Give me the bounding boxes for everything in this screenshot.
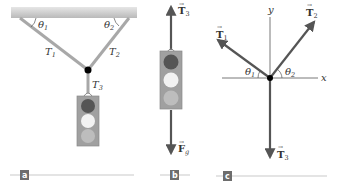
label-t1: T1 bbox=[45, 46, 56, 59]
vector-t2 bbox=[270, 22, 314, 78]
hook bbox=[84, 93, 92, 96]
panel-tag-c-label: c bbox=[225, 172, 230, 181]
angle-arc-theta1-c bbox=[258, 71, 260, 78]
label-theta2-c: θ2 bbox=[285, 66, 295, 79]
physics-figure: θ1 θ2 T1 T2 T3 a bbox=[0, 0, 342, 190]
angle-arc-theta2-c bbox=[277, 69, 282, 78]
knot bbox=[85, 67, 92, 74]
angle-arc-theta2 bbox=[114, 18, 119, 26]
label-t2-c: T2 bbox=[306, 7, 318, 20]
knot-c bbox=[267, 75, 273, 81]
x-axis-label: x bbox=[321, 72, 327, 83]
vec-arrow-t3-b: → bbox=[179, 0, 184, 7]
cable-t1 bbox=[20, 18, 88, 70]
label-theta2: θ2 bbox=[104, 19, 114, 32]
traffic-light-a bbox=[77, 96, 99, 146]
panel-a: θ1 θ2 T1 T2 T3 a bbox=[10, 7, 137, 180]
label-theta1: θ1 bbox=[38, 19, 48, 32]
panel-b: T3 → Fg → b bbox=[160, 0, 190, 180]
panel-tag-b-label: b bbox=[172, 171, 178, 180]
label-t1-c: T1 bbox=[216, 29, 228, 42]
label-t3-c: T3 bbox=[277, 149, 289, 162]
label-theta1-c: θ1 bbox=[245, 66, 255, 79]
vec-arrow-t1-c: → bbox=[217, 23, 222, 30]
y-axis-label: y bbox=[267, 4, 274, 15]
vec-arrow-t3-c: → bbox=[278, 143, 283, 150]
vector-t1 bbox=[218, 40, 270, 78]
label-t2: T2 bbox=[109, 46, 120, 59]
label-t3: T3 bbox=[92, 79, 103, 92]
vec-arrow-t2-c: → bbox=[307, 1, 312, 8]
panel-c: x y θ1 θ2 T1 → T2 → T3 → c bbox=[216, 1, 327, 181]
vec-arrow-fg: → bbox=[179, 138, 184, 145]
panel-tag-a-label: a bbox=[22, 171, 27, 180]
ceiling bbox=[11, 7, 137, 18]
traffic-light-b bbox=[160, 51, 182, 109]
